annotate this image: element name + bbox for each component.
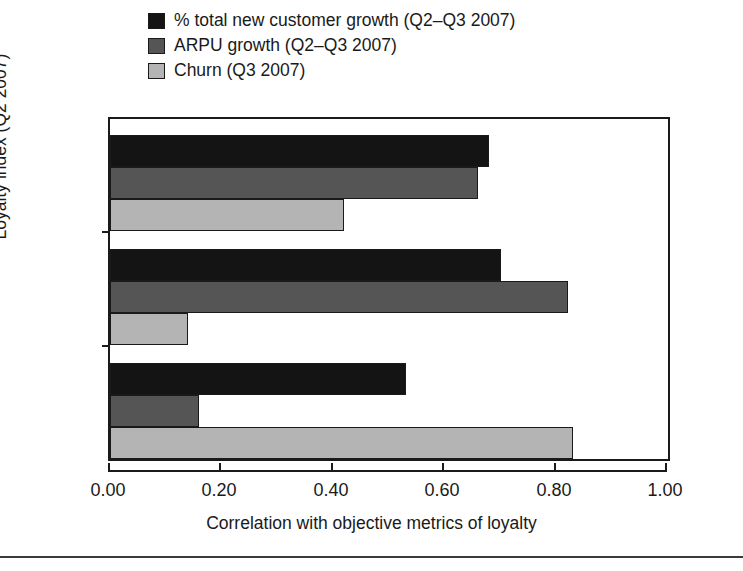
bar-pli-new-customer-growth xyxy=(110,249,501,281)
legend-item-label: ARPU growth (Q2–Q3 2007) xyxy=(174,36,397,55)
x-tick-label-1: 0.20 xyxy=(179,480,259,501)
x-axis-title: Correlation with objective metrics of lo… xyxy=(0,513,743,534)
legend-item-label: Churn (Q3 2007) xyxy=(174,61,305,80)
bar-ali-new-customer-growth xyxy=(110,135,489,167)
chart-legend: % total new customer growth (Q2–Q3 2007)… xyxy=(148,8,668,83)
x-tick-label-5: 1.00 xyxy=(625,480,705,501)
legend-item: % total new customer growth (Q2–Q3 2007) xyxy=(148,8,668,33)
figure-bottom-rule xyxy=(0,556,743,558)
legend-swatch-icon xyxy=(148,63,165,79)
x-axis-tick-mark xyxy=(108,463,110,472)
bar-ali-arpu-growth xyxy=(110,167,478,199)
legend-swatch-icon xyxy=(148,13,165,29)
legend-item-label: % total new customer growth (Q2–Q3 2007) xyxy=(174,11,515,30)
x-axis: 0.00 0.20 0.40 0.60 0.80 1.00 xyxy=(108,470,666,472)
x-axis-tick-mark xyxy=(219,463,221,472)
x-tick-label-0: 0.00 xyxy=(68,480,148,501)
bar-pli-arpu-growth xyxy=(110,281,568,313)
bar-rli-new-customer-growth xyxy=(110,363,406,395)
bars-layer xyxy=(110,119,668,459)
x-axis-tick-mark xyxy=(554,463,556,472)
x-axis-tick-mark xyxy=(331,463,333,472)
legend-item: ARPU growth (Q2–Q3 2007) xyxy=(148,33,668,58)
bar-pli-churn xyxy=(110,313,188,345)
x-axis-tick-mark xyxy=(665,463,667,472)
legend-swatch-icon xyxy=(148,38,165,54)
bar-ali-churn xyxy=(110,199,344,231)
x-tick-label-4: 0.80 xyxy=(514,480,594,501)
x-tick-label-3: 0.60 xyxy=(402,480,482,501)
bar-rli-arpu-growth xyxy=(110,395,199,427)
y-axis-title: Loyalty index (Q2 2007) xyxy=(0,0,11,357)
plot-area xyxy=(108,117,670,461)
legend-item: Churn (Q3 2007) xyxy=(148,58,668,83)
bar-rli-churn xyxy=(110,427,573,459)
x-axis-tick-mark xyxy=(442,463,444,472)
y-axis-tick-mark xyxy=(102,231,110,233)
x-tick-label-2: 0.40 xyxy=(291,480,371,501)
y-axis-tick-mark xyxy=(102,345,110,347)
